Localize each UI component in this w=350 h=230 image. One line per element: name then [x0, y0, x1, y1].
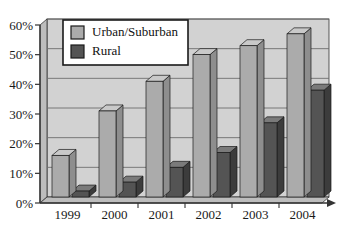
bar-urban-suburban-2003	[240, 40, 264, 197]
legend-label-urban-suburban: Urban/Suburban	[92, 24, 178, 39]
y-tick-label: 20%	[9, 136, 33, 151]
x-axis-arrow	[327, 199, 336, 207]
legend-label-rural: Rural	[92, 43, 121, 58]
x-tick-label: 2001	[149, 207, 175, 222]
x-tick-label: 2004	[290, 207, 317, 222]
x-axis-labels: 199920002001200220032004	[55, 203, 317, 222]
bar-chart: 0%10%20%30%40%50%60% 1999200020012002200…	[0, 0, 350, 230]
chart-floor	[40, 197, 329, 203]
chart-left-wall	[40, 19, 47, 203]
x-tick-label: 2002	[196, 207, 222, 222]
y-tick-label: 0%	[16, 196, 34, 211]
bar-urban-suburban-2001	[146, 75, 170, 197]
y-tick-label: 40%	[9, 77, 33, 92]
y-tick-label: 60%	[9, 18, 33, 33]
chart-legend: Urban/Suburban Rural	[63, 20, 188, 65]
x-tick-label: 2003	[243, 207, 269, 222]
bar-urban-suburban-2000	[99, 105, 123, 197]
y-tick-label: 30%	[9, 107, 33, 122]
x-tick-label: 1999	[55, 207, 81, 222]
y-tick-label: 10%	[9, 166, 33, 181]
bar-urban-suburban-2002	[193, 49, 217, 197]
y-axis-labels: 0%10%20%30%40%50%60%	[9, 18, 40, 211]
bar-urban-suburban-2004	[287, 28, 311, 197]
bar-urban-suburban-1999	[52, 149, 76, 197]
chart-canvas: 0%10%20%30%40%50%60% 1999200020012002200…	[0, 0, 350, 230]
legend-swatch-urban-suburban	[71, 26, 84, 39]
legend-swatch-rural	[71, 45, 84, 58]
y-tick-label: 50%	[9, 47, 33, 62]
x-tick-label: 2000	[102, 207, 128, 222]
